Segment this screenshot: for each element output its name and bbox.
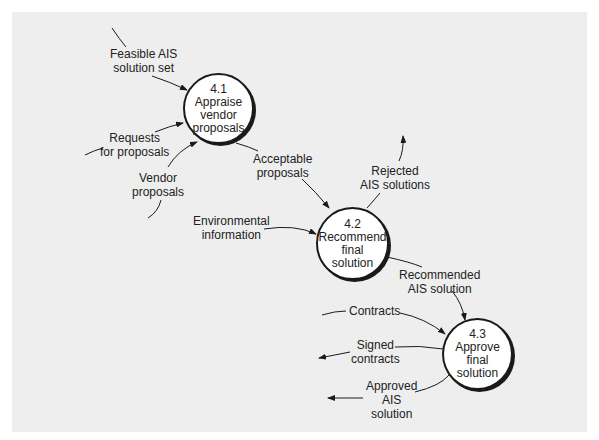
arrow-signed-out [395,346,443,349]
arrow-feasible-ais-in [152,76,187,90]
process-number: 4.2 [344,218,361,231]
process-4-3: 4.3 Approve final solution [442,318,513,390]
flow-label-acceptable-proposals: Acceptable proposals [253,152,312,180]
flow-label-line: Acceptable [253,152,312,166]
process-label: vendor [200,109,237,122]
flow-label-line: AIS [366,393,417,407]
flow-label-vendor-proposals: Vendor proposals [132,171,184,199]
process-label: proposals [192,122,244,135]
flow-label-approved-ais-solution: Approved AIS solution [366,379,417,421]
flow-label-line: Recommended [399,268,480,282]
flow-label-line: Requests [100,131,169,145]
arrow-feasible-ais [112,28,126,47]
flow-label-line: solution [366,407,417,421]
flow-label-signed-contracts: Signed contracts [351,338,400,366]
flow-label-contracts: Contracts [349,304,400,318]
arrow-rejected-up [399,136,403,161]
flow-label-rejected-ais-solutions: Rejected AIS solutions [360,164,430,192]
arrow-environmental-in [264,227,316,234]
flow-label-line: proposals [132,185,184,199]
flow-label-feasible-ais-solution-set: Feasible AIS solution set [110,47,177,75]
flow-arrows [0,0,599,440]
flow-label-line: AIS solution [399,282,480,296]
process-label: final [341,244,363,257]
arrow-acceptable-in [302,179,329,208]
flow-label-line: Approved [366,379,417,393]
flow-label-line: Environmental [193,214,270,228]
arrow-signed-arrowhead [319,352,350,358]
flow-label-line: Vendor [132,171,184,185]
process-label: Appraise [195,96,242,109]
flow-label-recommended-ais-solution: Recommended AIS solution [399,268,480,296]
flow-label-line: contracts [351,352,400,366]
flow-label-line: information [193,228,270,242]
flow-label-line: Contracts [349,304,400,318]
flow-label-line: AIS solutions [360,178,430,192]
process-4-2: 4.2 Recommend final solution [316,207,389,280]
arrow-contracts-tail [322,311,346,315]
flow-label-line: solution set [110,61,177,75]
arrow-recommended-out [387,257,422,267]
flow-label-requests-for-proposals: Requests for proposals [100,131,169,159]
flow-label-line: proposals [253,166,312,180]
flow-label-line: Feasible AIS [110,47,177,61]
flow-label-line: for proposals [100,145,169,159]
process-label: solution [457,367,498,380]
process-label: solution [332,257,373,270]
process-number: 4.1 [210,83,227,96]
process-label: Recommend [318,231,386,244]
arrow-rejected-out [367,193,380,208]
flow-label-line: Rejected [360,164,430,178]
arrow-approved-out [415,375,449,392]
flow-label-environmental-information: Environmental information [193,214,270,242]
arrow-contracts-in [400,313,445,334]
arrow-vendor-in [168,142,197,167]
process-4-1: 4.1 Appraise vendor proposals [183,73,254,144]
arrow-acceptable-out [236,143,258,151]
flow-label-line: Signed [351,338,400,352]
arrow-vendor-tail [148,200,161,218]
